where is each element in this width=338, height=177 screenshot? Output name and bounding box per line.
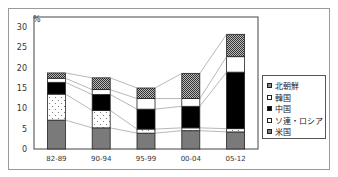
y-unit-label: % <box>33 15 41 24</box>
x-tick-label: 90-94 <box>91 155 112 163</box>
connector-line <box>155 73 182 88</box>
connector-line <box>200 34 227 73</box>
bar-segment <box>182 73 200 98</box>
bar-segment <box>92 128 110 149</box>
x-tick-label: 00-04 <box>181 155 202 163</box>
connector-line <box>65 94 92 110</box>
legend-swatch-icon <box>267 83 272 88</box>
legend-swatch-icon <box>267 106 272 111</box>
legend-item: 中国 <box>267 103 325 115</box>
legend: 北朝鮮韓国中国ソ連・ロシア米国 <box>262 75 326 139</box>
legend-item: ソ連・ロシア <box>267 115 325 127</box>
connector-line <box>110 95 137 110</box>
y-tick-label: 5 <box>22 125 27 134</box>
bar-segment <box>92 90 110 95</box>
connector-line <box>200 131 227 132</box>
connector-line <box>65 120 92 128</box>
y-tick-label: 20 <box>17 64 27 73</box>
bar-segment <box>227 34 245 56</box>
connector-line <box>155 106 182 109</box>
bar-segment <box>47 82 65 94</box>
bar-segment <box>47 120 65 149</box>
bar-segment <box>47 94 65 120</box>
connector-line <box>155 131 182 133</box>
legend-item: 韓国 <box>267 92 325 104</box>
y-tick-label: 30 <box>17 23 27 32</box>
bar-segment <box>92 95 110 111</box>
bar-segment <box>137 133 155 149</box>
bar-segment <box>182 106 200 128</box>
bar-segment <box>92 78 110 90</box>
y-tick-label: 10 <box>17 104 27 113</box>
legend-label: 中国 <box>275 103 291 114</box>
x-tick-label: 95-99 <box>136 155 156 163</box>
legend-label: 韓国 <box>275 92 291 103</box>
x-tick-label: 05-12 <box>225 155 245 163</box>
plot-area: 051015202530%82-8990-9495-9900-0405-12 <box>17 15 258 163</box>
connector-line <box>110 78 137 88</box>
connector-line <box>110 128 137 133</box>
legend-swatch-icon <box>267 118 272 123</box>
legend-label: ソ連・ロシア <box>275 115 323 126</box>
bar-segment <box>227 129 245 132</box>
connector-line <box>200 128 227 129</box>
bar-segment <box>137 129 155 133</box>
y-tick-label: 15 <box>17 84 27 93</box>
bar-segment <box>182 128 200 131</box>
bar-segment <box>137 88 155 99</box>
connector-line <box>110 90 137 99</box>
connector-line <box>65 73 92 78</box>
bar-segment <box>182 99 200 107</box>
legend-swatch-icon <box>267 129 272 134</box>
legend-item: 北朝鮮 <box>267 80 325 92</box>
connector-line <box>155 128 182 129</box>
legend-label: 米国 <box>275 126 291 137</box>
bar-segment <box>137 109 155 129</box>
connector-line <box>110 110 137 129</box>
bar-segment <box>47 78 65 82</box>
legend-item: 米国 <box>267 126 325 138</box>
bar-segment <box>227 132 245 149</box>
bar-segment <box>47 73 65 78</box>
bar-segment <box>227 72 245 129</box>
bar-segment <box>92 110 110 127</box>
y-tick-label: 0 <box>22 145 27 154</box>
y-tick-label: 25 <box>17 43 27 52</box>
bar-segment <box>182 131 200 149</box>
legend-swatch-icon <box>267 95 272 100</box>
x-tick-label: 82-89 <box>46 155 66 163</box>
bar-segment <box>137 99 155 110</box>
legend-label: 北朝鮮 <box>275 80 299 91</box>
bar-segment <box>227 57 245 72</box>
